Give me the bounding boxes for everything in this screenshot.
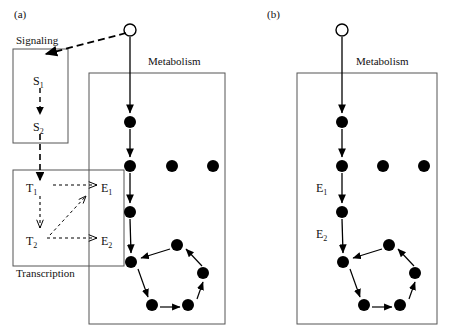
metabolite-node bbox=[336, 206, 348, 218]
metabolite-node bbox=[124, 160, 136, 172]
metabolite-node bbox=[124, 116, 136, 128]
species-label-t2: T2 bbox=[26, 234, 37, 250]
metabolite-node bbox=[207, 160, 219, 172]
species-label-s1: S1 bbox=[33, 74, 44, 90]
metabolism-box-label-b: Metabolism bbox=[356, 55, 409, 67]
metabolite-node bbox=[337, 256, 349, 268]
metabolite-node bbox=[336, 160, 348, 172]
metabolite-node bbox=[171, 239, 183, 251]
arrow-cycle-1 bbox=[350, 269, 360, 297]
metabolite-node bbox=[124, 206, 136, 218]
metabolism-box-label-a: Metabolism bbox=[148, 55, 201, 67]
signaling-box-label: Signaling bbox=[16, 34, 58, 46]
arrow-cycle-1 bbox=[138, 269, 148, 297]
panel-b-group bbox=[297, 24, 437, 324]
metabolism-box bbox=[89, 73, 225, 324]
figure-canvas: (a) (b) Signaling Transcription Metaboli… bbox=[0, 0, 450, 333]
panel-a-label: (a) bbox=[14, 8, 26, 20]
arrow-cycle-5 bbox=[141, 249, 170, 258]
panel-a-group bbox=[13, 24, 225, 324]
species-label-e1-b: E1 bbox=[316, 181, 327, 197]
species-label-e1-a: E1 bbox=[101, 181, 112, 197]
arrow-feedback-diagonal-a bbox=[50, 196, 86, 235]
metabolite-node bbox=[146, 299, 158, 311]
panel-b-label: (b) bbox=[267, 8, 280, 20]
arrow-node3-to-node4 bbox=[130, 219, 131, 253]
diagram-svg bbox=[0, 0, 450, 333]
arrow-node3-to-node4 bbox=[342, 219, 343, 253]
metabolite-node bbox=[383, 239, 395, 251]
species-label-e2-a: E2 bbox=[101, 234, 112, 250]
arrow-cycle-3 bbox=[409, 282, 415, 299]
metabolite-node bbox=[418, 160, 430, 172]
input-open-circle bbox=[124, 24, 136, 36]
arrow-cycle-3 bbox=[197, 282, 203, 299]
metabolite-node bbox=[166, 160, 178, 172]
metabolite-node bbox=[182, 299, 194, 311]
metabolite-node bbox=[197, 267, 209, 279]
metabolite-node bbox=[409, 267, 421, 279]
species-label-t1: T1 bbox=[26, 181, 37, 197]
metabolite-node bbox=[377, 160, 389, 172]
metabolite-node bbox=[358, 299, 370, 311]
metabolite-node bbox=[394, 299, 406, 311]
species-label-s2: S2 bbox=[33, 120, 44, 136]
metabolite-node bbox=[125, 256, 137, 268]
metabolite-node bbox=[336, 116, 348, 128]
input-open-circle bbox=[336, 24, 348, 36]
arrow-cycle-5 bbox=[353, 249, 382, 258]
transcription-box-label: Transcription bbox=[16, 267, 75, 279]
species-label-e2-b: E2 bbox=[316, 227, 327, 243]
arrow-cycle-4 bbox=[186, 249, 202, 266]
metabolism-box bbox=[297, 73, 437, 324]
arrow-cycle-4 bbox=[398, 249, 414, 266]
